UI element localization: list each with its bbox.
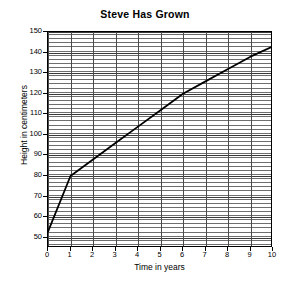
x-tick-mark <box>272 247 273 251</box>
x-tick-mark <box>70 247 71 251</box>
x-tick-label: 5 <box>150 250 170 259</box>
x-tick-label: 8 <box>217 250 237 259</box>
x-tick-mark <box>182 247 183 251</box>
x-tick-mark <box>137 247 138 251</box>
y-tick-mark <box>43 93 47 94</box>
y-tick-mark <box>43 113 47 114</box>
y-tick-label: 150 <box>14 27 42 35</box>
y-tick-mark <box>43 72 47 73</box>
x-tick-label: 2 <box>82 250 102 259</box>
y-tick-mark <box>43 134 47 135</box>
x-tick-label: 4 <box>127 250 147 259</box>
x-tick-mark <box>92 247 93 251</box>
x-tick-label: 3 <box>105 250 125 259</box>
y-tick-mark <box>43 196 47 197</box>
y-tick-label: 50 <box>14 233 42 241</box>
x-tick-mark <box>160 247 161 251</box>
x-tick-label: 1 <box>60 250 80 259</box>
y-tick-mark <box>43 154 47 155</box>
y-tick-mark <box>43 216 47 217</box>
chart-figure: Steve Has Grown 506070809010011012013014… <box>0 0 290 286</box>
x-tick-mark <box>205 247 206 251</box>
y-tick-mark <box>43 237 47 238</box>
x-tick-label: 6 <box>172 250 192 259</box>
x-tick-mark <box>250 247 251 251</box>
y-axis-title: Height in centimeters <box>19 35 29 215</box>
data-line-series <box>48 32 272 247</box>
series-line-height <box>48 46 272 231</box>
y-tick-mark <box>43 175 47 176</box>
x-tick-label: 0 <box>37 250 57 259</box>
x-tick-label: 9 <box>240 250 260 259</box>
x-tick-mark <box>115 247 116 251</box>
plot-area <box>47 31 272 247</box>
y-tick-mark <box>43 52 47 53</box>
x-tick-label: 7 <box>195 250 215 259</box>
x-axis-title: Time in years <box>47 262 272 272</box>
x-tick-mark <box>47 247 48 251</box>
y-tick-mark <box>43 31 47 32</box>
x-tick-label: 10 <box>262 250 282 259</box>
x-tick-mark <box>227 247 228 251</box>
